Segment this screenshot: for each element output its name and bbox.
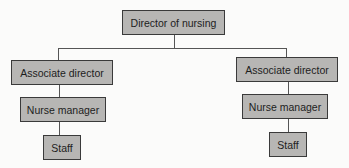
connector-left-associate-manager xyxy=(59,85,60,97)
connector-right-manager-staff xyxy=(288,119,289,132)
node-right-staff: Staff xyxy=(269,132,307,157)
node-right-associate-director: Associate director xyxy=(236,57,338,82)
connector-director-down xyxy=(174,35,175,48)
node-left-staff: Staff xyxy=(43,135,81,160)
connector-right-associate-manager xyxy=(288,82,289,94)
node-left-associate-director: Associate director xyxy=(11,60,113,85)
node-left-nurse-manager: Nurse manager xyxy=(20,97,106,122)
connector-right-down xyxy=(286,48,287,57)
connector-left-manager-staff xyxy=(59,122,60,135)
connector-left-down xyxy=(58,48,59,60)
connector-horizontal xyxy=(58,48,287,49)
node-right-nurse-manager: Nurse manager xyxy=(242,94,328,119)
node-director-of-nursing: Director of nursing xyxy=(122,10,225,35)
